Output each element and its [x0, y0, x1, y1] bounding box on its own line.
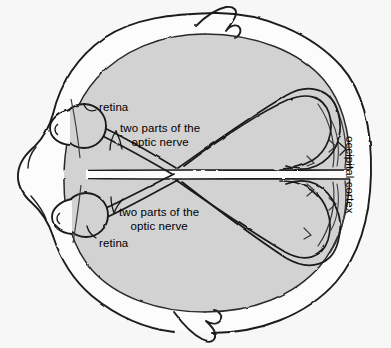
label-retina-top: retina	[99, 101, 128, 115]
visual-pathway-figure: retina two parts of the optic nerve two …	[0, 0, 391, 348]
diagram-canvas	[0, 0, 391, 348]
label-optic-nerve-bottom: two parts of the optic nerve	[119, 206, 199, 233]
label-optic-nerve-top: two parts of the optic nerve	[120, 122, 200, 149]
label-occipital-cortex: occipital cortex	[343, 136, 357, 214]
longitudinal-fissure	[86, 170, 352, 179]
label-retina-bottom: retina	[99, 237, 128, 251]
